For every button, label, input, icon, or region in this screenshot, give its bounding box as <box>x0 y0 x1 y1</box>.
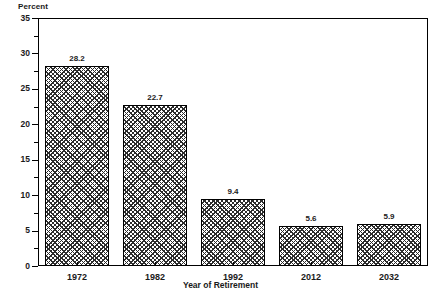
y-tick-mark <box>32 160 38 161</box>
y-minor-tick-mark <box>34 71 38 72</box>
y-minor-tick-mark <box>34 107 38 108</box>
y-minor-tick-mark <box>34 36 38 37</box>
y-minor-tick-mark <box>34 142 38 143</box>
x-tick-mark <box>311 262 312 266</box>
y-tick-label: 30 <box>2 49 30 58</box>
bar-value-label: 9.4 <box>203 188 263 196</box>
y-tick-label: 25 <box>2 84 30 93</box>
x-tick-mark <box>77 262 78 266</box>
y-minor-tick-mark <box>34 177 38 178</box>
bar-value-label: 22.7 <box>125 94 185 102</box>
y-tick-label: 35 <box>2 14 30 23</box>
bar <box>357 224 421 266</box>
y-axis-unit-label: Percent <box>18 2 48 11</box>
y-tick-mark <box>32 124 38 125</box>
bar <box>123 105 187 266</box>
x-axis-title: Year of Retirement <box>0 281 441 290</box>
bar <box>279 226 343 266</box>
bar-value-label: 5.6 <box>281 215 341 223</box>
bar-value-label: 28.2 <box>47 55 107 63</box>
bar-chart: Percent 05101520253035 28.222.79.45.65.9… <box>0 0 441 299</box>
x-tick-mark <box>155 262 156 266</box>
y-tick-mark <box>32 266 38 267</box>
bar-value-label: 5.9 <box>359 213 419 221</box>
y-tick-label: 15 <box>2 155 30 164</box>
x-tick-mark <box>389 262 390 266</box>
y-tick-label: 5 <box>2 226 30 235</box>
y-tick-mark <box>32 53 38 54</box>
bar <box>201 199 265 266</box>
y-tick-mark <box>32 195 38 196</box>
bar <box>45 66 109 266</box>
y-tick-mark <box>32 231 38 232</box>
y-tick-label: 20 <box>2 120 30 129</box>
y-minor-tick-mark <box>34 213 38 214</box>
y-tick-mark <box>32 18 38 19</box>
y-tick-mark <box>32 89 38 90</box>
y-tick-label: 10 <box>2 191 30 200</box>
x-tick-mark <box>233 262 234 266</box>
y-tick-label: 0 <box>2 262 30 271</box>
y-minor-tick-mark <box>34 248 38 249</box>
